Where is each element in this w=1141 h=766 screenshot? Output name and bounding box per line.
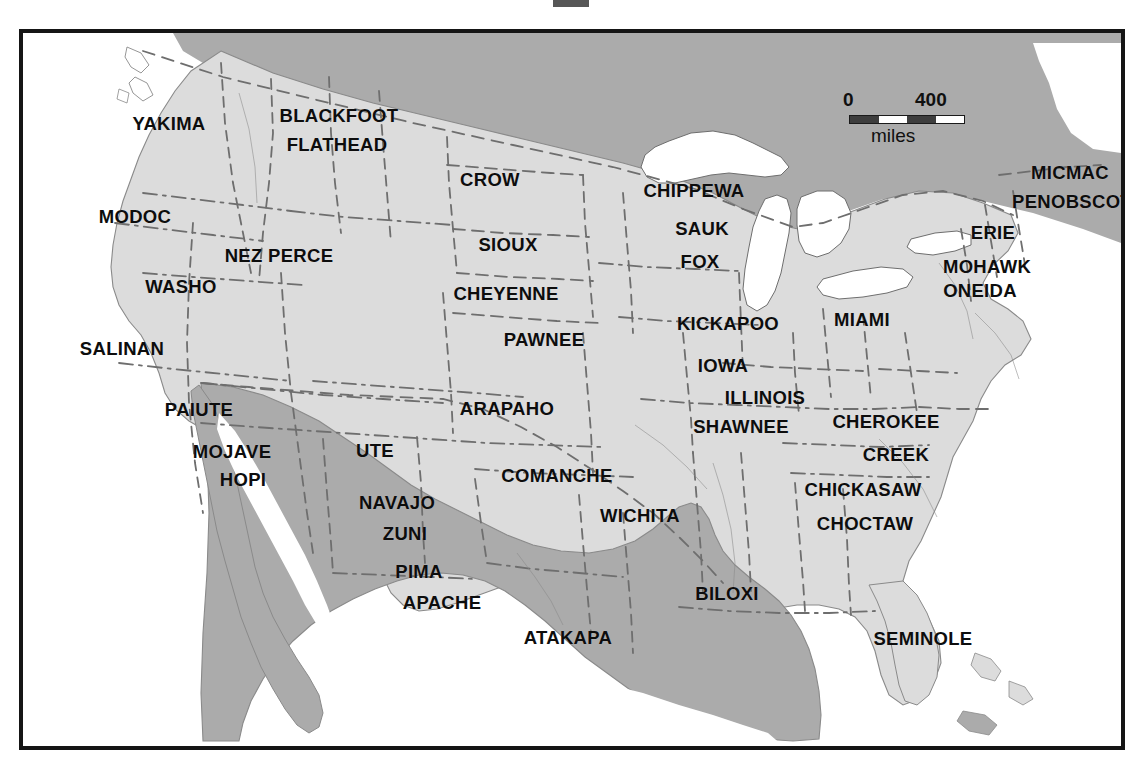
tribe-label: CHICKASAW (805, 479, 922, 501)
scale-bar (849, 115, 965, 124)
tribe-label: ONEIDA (943, 280, 1017, 302)
tribe-label: PIMA (395, 561, 442, 583)
map-page: YAKIMABLACKFOOTFLATHEADCROWCHIPPEWAMICMA… (0, 0, 1141, 766)
scale-segment-dark (907, 116, 936, 123)
tribe-label: CHEROKEE (832, 411, 939, 433)
tribe-label: CHEYENNE (453, 283, 558, 305)
tribe-label: ARAPAHO (460, 398, 554, 420)
tribe-label: CHIPPEWA (643, 180, 744, 202)
scale-end-labels: 0 400 (823, 89, 959, 113)
tribe-label: SIOUX (478, 234, 537, 256)
scale-units-label: miles (871, 125, 915, 147)
tribe-label: CREEK (863, 444, 929, 466)
tribe-label: IOWA (698, 355, 749, 377)
cropped-title-fragment (553, 0, 589, 7)
tribe-label: NAVAJO (359, 492, 435, 514)
tribe-label: PAIUTE (165, 399, 233, 421)
tribe-label: ILLINOIS (725, 387, 806, 409)
scale-segment-light (936, 116, 965, 123)
tribe-label: SALINAN (80, 338, 164, 360)
tribe-label: FOX (681, 251, 720, 273)
tribe-label: MODOC (99, 206, 171, 228)
scale-bar-group: 0 400 miles (823, 89, 959, 153)
tribe-label: ATAKAPA (524, 627, 612, 649)
tribe-label: WICHITA (600, 505, 680, 527)
tribe-label: MOJAVE (193, 441, 272, 463)
tribe-label: CROW (460, 169, 520, 191)
tribe-label: NEZ PERCE (225, 245, 334, 267)
tribe-label: MICMAC (1031, 162, 1109, 184)
tribe-label: SAUK (675, 218, 729, 240)
tribe-label: MIAMI (834, 309, 890, 331)
scale-segment-light (879, 116, 908, 123)
tribe-label: HOPI (220, 469, 266, 491)
scale-segment-dark (850, 116, 879, 123)
tribe-label: FLATHEAD (287, 134, 388, 156)
tribe-label: ZUNI (383, 523, 427, 545)
tribe-label: PAWNEE (504, 329, 585, 351)
tribe-label: WASHO (145, 276, 216, 298)
tribe-label: SHAWNEE (693, 416, 789, 438)
tribe-label: APACHE (403, 592, 482, 614)
scale-max-label: 400 (915, 89, 947, 111)
tribe-label: MOHAWK (943, 256, 1031, 278)
tribe-label: SEMINOLE (873, 628, 972, 650)
scale-min-label: 0 (843, 89, 854, 111)
tribe-label: CHOCTAW (817, 513, 913, 535)
tribe-label: PENOBSCOT (1012, 191, 1125, 213)
tribe-label: BLACKFOOT (280, 105, 399, 127)
tribe-label: YAKIMA (132, 113, 205, 135)
tribe-label: ERIE (971, 222, 1015, 244)
tribe-label: BILOXI (695, 583, 758, 605)
tribe-label: UTE (356, 440, 394, 462)
map-frame: YAKIMABLACKFOOTFLATHEADCROWCHIPPEWAMICMA… (19, 29, 1125, 750)
tribe-label: COMANCHE (501, 465, 612, 487)
tribe-label: KICKAPOO (677, 313, 779, 335)
